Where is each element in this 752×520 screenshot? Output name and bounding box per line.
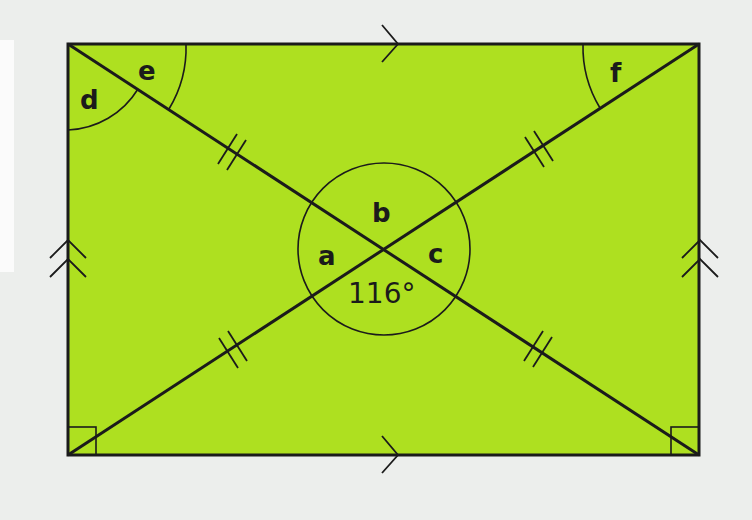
- label-a: a: [318, 241, 336, 271]
- label-b: b: [372, 198, 391, 228]
- label-e: e: [138, 56, 156, 86]
- label-c: c: [428, 239, 443, 269]
- label-angle-116: 116°: [348, 277, 415, 310]
- label-d: d: [80, 85, 99, 115]
- rectangle-diagonals-diagram: d e f b a c 116°: [0, 0, 752, 520]
- label-f: f: [610, 58, 622, 88]
